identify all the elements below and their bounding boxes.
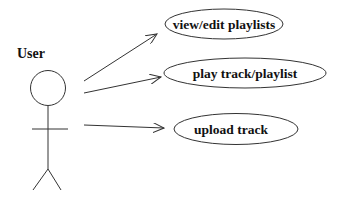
association-arrow-view-edit (84, 34, 157, 81)
use-case-upload-track: upload track (174, 114, 298, 145)
actor-label: User (17, 46, 45, 61)
actor-user: User (17, 46, 68, 190)
use-case-label: play track/playlist (193, 66, 298, 81)
association-arrow-play (84, 77, 161, 93)
use-case-view-edit-playlists: view/edit playlists (165, 9, 283, 39)
diagram-svg: User view/edit playlists play track/play… (0, 0, 340, 202)
actor-head (31, 71, 66, 106)
use-case-play-track-playlist: play track/playlist (164, 58, 326, 88)
actor-right-leg (48, 169, 61, 190)
association-arrow-upload (84, 125, 164, 128)
actor-left-leg (33, 169, 48, 190)
use-case-diagram: User view/edit playlists play track/play… (0, 0, 340, 202)
use-case-label: view/edit playlists (173, 17, 275, 32)
use-case-label: upload track (194, 122, 268, 137)
